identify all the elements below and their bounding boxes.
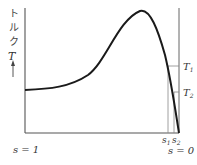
torque-curve	[25, 11, 179, 133]
y-axis-symbol: T	[8, 50, 17, 63]
s-one-label: s = 1	[13, 144, 39, 155]
y-axis-label-char-1: ト	[9, 8, 19, 19]
y-axis-label-char-3: ク	[9, 36, 19, 47]
t2-label: T2	[183, 87, 194, 99]
y-axis-label-char-2: ル	[9, 22, 19, 33]
s-zero-label: s = 0	[168, 145, 195, 156]
t1-label: T1	[183, 61, 194, 73]
torque-slip-diagram: ト ル ク T T1 T2 s1 s2 s = 0 s = 1	[0, 0, 197, 165]
